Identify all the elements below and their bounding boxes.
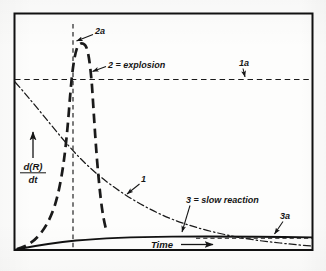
curve-2-explosion — [17, 43, 106, 249]
annotation-3a-label: 3a — [280, 211, 290, 221]
annotation-2a-leader-icon — [77, 35, 94, 42]
annotation-3-label: 3 = slow reaction — [186, 195, 259, 205]
y-axis-label-group: d(R) dt — [20, 132, 46, 185]
annotation-3a-leader-icon — [275, 222, 284, 235]
annotation-3a: 3a — [275, 211, 291, 234]
annotation-2-explosion: 2 = explosion — [93, 60, 166, 72]
annotation-2-label: 2 = explosion — [107, 60, 166, 70]
annotation-1a-label: 1a — [239, 58, 249, 68]
annotation-3-leader-icon — [182, 206, 190, 233]
kinetics-figure: d(R) dt Time 2a 2 = explosion 1a 1 — [0, 0, 326, 271]
x-axis-label: Time — [151, 239, 174, 250]
y-axis-label-denominator: dt — [29, 174, 39, 185]
plot-frame — [15, 14, 313, 251]
annotation-1-label: 1 — [141, 174, 146, 184]
y-axis-label-numerator: d(R) — [24, 161, 43, 172]
chart-canvas: d(R) dt Time 2a 2 = explosion 1a 1 — [0, 0, 326, 271]
annotation-2a: 2a — [77, 26, 106, 41]
curve-1-dash-dot — [15, 82, 312, 246]
annotation-2a-label: 2a — [94, 26, 105, 36]
annotation-1-leader-icon — [127, 184, 140, 194]
annotation-1a-leader-icon — [243, 69, 245, 78]
annotation-1a: 1a — [239, 58, 249, 77]
annotation-2-leader-icon — [93, 67, 107, 72]
annotation-1: 1 — [127, 174, 146, 194]
x-axis-label-group: Time — [151, 239, 213, 250]
